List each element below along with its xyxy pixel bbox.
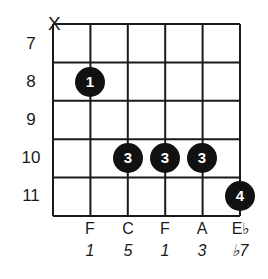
note-name: F	[75, 220, 105, 238]
finger-dot: 4	[225, 181, 255, 211]
interval-label: 3	[187, 242, 217, 260]
interval-label: 5	[113, 242, 143, 260]
finger-dot: 3	[113, 143, 143, 173]
chord-diagram: X 7 8 9 10 11 1 3 3 3 4 F C F A E♭ 1 5 1…	[0, 0, 268, 279]
fret-number-7: 7	[16, 34, 46, 54]
note-name: F	[150, 220, 180, 238]
interval-label: 1	[150, 242, 180, 260]
fret-number-9: 9	[16, 110, 46, 130]
finger-dot: 1	[75, 67, 105, 97]
finger-dot: 3	[187, 143, 217, 173]
interval-label: ♭7	[225, 242, 255, 260]
note-name: E♭	[226, 220, 256, 238]
fret-number-8: 8	[16, 72, 46, 92]
note-name: C	[113, 220, 143, 238]
muted-string-marker: X	[48, 14, 61, 33]
note-name: A	[187, 220, 217, 238]
interval-label: 1	[75, 242, 105, 260]
fret-number-10: 10	[16, 148, 46, 168]
finger-dot: 3	[150, 143, 180, 173]
fret-number-11: 11	[16, 186, 46, 206]
